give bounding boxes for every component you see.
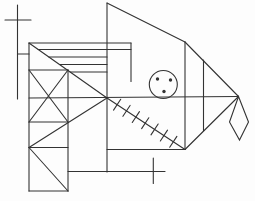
eye-dot: [162, 90, 165, 93]
lower-square-diagonal: [29, 148, 68, 192]
gill-hatch-ticks: [123, 105, 130, 116]
line-drawing-canvas: [0, 0, 255, 201]
gill-hatch-ticks: [132, 112, 139, 123]
abstract-figure-drawing: [0, 0, 255, 201]
eye-dot: [156, 77, 159, 80]
eye-circle: [149, 71, 177, 99]
peak-diagonal: [107, 3, 185, 42]
gill-hatch-ticks: [170, 136, 177, 147]
head-top-diagonal: [185, 42, 239, 97]
mid-horizontal: [29, 97, 239, 99]
gill-hatch-ticks: [160, 130, 167, 141]
gill-hatch-ticks: [151, 124, 158, 135]
eye-dot: [169, 78, 172, 81]
gill-hatch-ticks: [142, 118, 149, 129]
gill-hatch-ticks: [114, 99, 121, 110]
